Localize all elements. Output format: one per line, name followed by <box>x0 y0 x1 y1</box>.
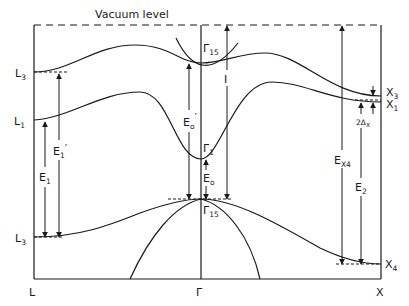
vacuum-level-label: Vacuum level <box>95 8 169 21</box>
heavy-hole-valence-band <box>130 199 260 279</box>
kpoint-gamma: Γ <box>196 286 203 299</box>
kpoint-x: X <box>376 286 384 299</box>
kpoint-l: L <box>29 286 36 299</box>
label-x4: X4 <box>385 258 398 273</box>
band-structure-diagram: Vacuum level L3 L1 L3 E1 E1′ Γ15 Eo′ Γ1 … <box>0 0 409 306</box>
label-l3-lower: L3 <box>15 232 26 247</box>
label-gamma15-upper: Γ15 <box>203 42 219 57</box>
label-l3-upper: L3 <box>15 67 26 82</box>
label-ionization-i: I <box>224 73 227 86</box>
label-l1: L1 <box>14 115 25 130</box>
label-gamma1: Γ1 <box>203 142 214 157</box>
